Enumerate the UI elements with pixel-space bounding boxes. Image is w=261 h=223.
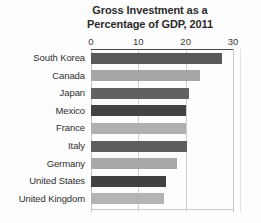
x-axis-line-top — [91, 49, 233, 50]
chart-title-line-2: Percentage of GDP, 2011 — [60, 18, 240, 32]
bar-italy — [91, 141, 187, 152]
category-label-canada: Canada — [52, 70, 85, 81]
bar-row: Germany — [0, 157, 261, 175]
bar-canada — [91, 70, 200, 81]
category-label-germany: Germany — [47, 158, 85, 169]
category-label-mexico: Mexico — [56, 105, 86, 116]
x-axis-tick-labels: 0102030 — [0, 36, 261, 48]
bar-row: Italy — [0, 139, 261, 157]
x-tick-label-0: 0 — [88, 36, 93, 47]
chart-title-line-1: Gross Investment as a — [60, 4, 240, 18]
x-tick-label-30: 30 — [228, 36, 239, 47]
bar-japan — [91, 88, 189, 99]
bar-south-korea — [91, 53, 222, 64]
bar-row: United Kingdom — [0, 192, 261, 210]
bar-germany — [91, 158, 177, 169]
bar-mexico — [91, 105, 186, 116]
category-label-italy: Italy — [68, 140, 85, 151]
bar-row: Mexico — [0, 104, 261, 122]
bar-row: Japan — [0, 86, 261, 104]
bar-united-kingdom — [91, 193, 164, 204]
category-label-united-states: United States — [29, 175, 85, 186]
bar-united-states — [91, 176, 166, 187]
chart-title: Gross Investment as a Percentage of GDP,… — [60, 4, 240, 31]
bar-row: United States — [0, 174, 261, 192]
x-tick-label-10: 10 — [133, 36, 144, 47]
category-label-france: France — [56, 122, 85, 133]
bar-row: France — [0, 121, 261, 139]
category-label-south-korea: South Korea — [33, 52, 85, 63]
bar-chart: Gross Investment as a Percentage of GDP,… — [0, 0, 261, 223]
bar-row: South Korea — [0, 51, 261, 69]
bar-row: Canada — [0, 69, 261, 87]
bar-france — [91, 123, 186, 134]
category-label-japan: Japan — [60, 87, 85, 98]
x-tick-label-20: 20 — [180, 36, 191, 47]
category-label-united-kingdom: United Kingdom — [19, 193, 85, 204]
